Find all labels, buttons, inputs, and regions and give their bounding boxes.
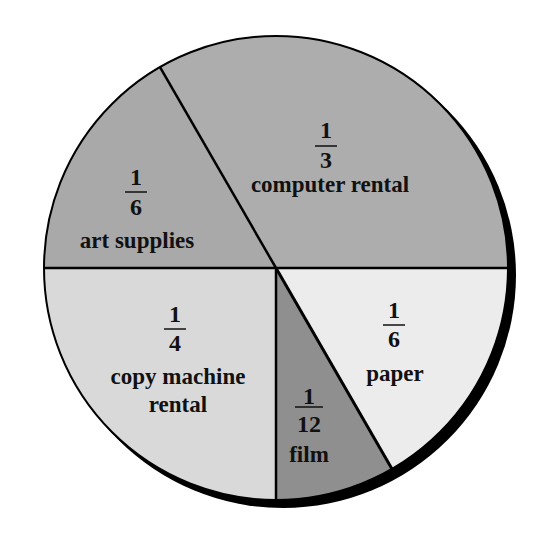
pie-chart: 1 3 computer rental 1 6 art supplies 1 4…	[0, 0, 540, 537]
svg-text:art supplies: art supplies	[80, 228, 194, 253]
svg-text:copy machine: copy machine	[111, 364, 246, 389]
svg-text:6: 6	[130, 194, 142, 220]
svg-text:rental: rental	[149, 392, 207, 417]
svg-text:3: 3	[320, 147, 332, 173]
svg-text:1: 1	[320, 117, 332, 143]
svg-text:1: 1	[169, 301, 181, 327]
svg-text:12: 12	[297, 411, 321, 437]
svg-text:1: 1	[388, 297, 400, 323]
svg-text:1: 1	[130, 164, 142, 190]
svg-text:4: 4	[169, 330, 181, 356]
svg-text:6: 6	[388, 326, 400, 352]
svg-text:paper: paper	[366, 361, 424, 386]
svg-text:computer rental: computer rental	[251, 172, 409, 197]
svg-text:1: 1	[303, 383, 315, 409]
svg-text:film: film	[289, 442, 329, 467]
